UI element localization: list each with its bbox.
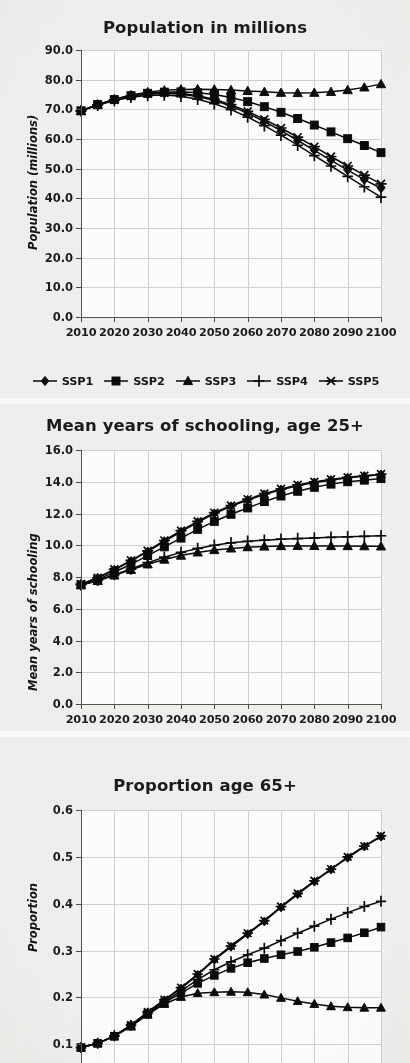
y-axis-tick-label: 0.2 xyxy=(53,990,73,1004)
gridline-vertical xyxy=(381,450,382,704)
y-axis-tick-label: 0.0 xyxy=(53,697,73,711)
y-axis-tick-label: 0.0 xyxy=(53,310,73,324)
triangle-marker-icon xyxy=(174,373,202,389)
y-axis-tick-label: 12.0 xyxy=(45,507,73,521)
legend-item-ssp2[interactable]: SSP2 xyxy=(102,373,165,389)
x-axis-line xyxy=(81,317,381,318)
y-axis-tick-label: 0.1 xyxy=(53,1037,73,1051)
y-axis-tick-label: 4.0 xyxy=(53,634,73,648)
y-axis-line xyxy=(81,50,82,317)
legend-label: SSP3 xyxy=(205,375,237,388)
x-axis-tick-label: 2030 xyxy=(132,713,163,726)
chart-title-proportion65: Proportion age 65+ xyxy=(0,776,410,795)
y-axis-tick-label: 2.0 xyxy=(53,665,73,679)
plot-area-population xyxy=(81,50,381,317)
x-axis-tick-label: 2010 xyxy=(66,713,97,726)
x-axis-tick-label: 2060 xyxy=(232,713,263,726)
x-axis-tick-label: 2010 xyxy=(66,326,97,339)
legend-label: SSP2 xyxy=(133,375,165,388)
x-tick-mark xyxy=(381,704,382,709)
y-axis-label-population: Population (millions) xyxy=(26,115,40,250)
series-ssp5 xyxy=(75,470,386,588)
x-axis-line xyxy=(81,704,381,705)
chart-panel-population: Population in millions Population (milli… xyxy=(0,0,410,398)
y-axis-tick-label: 6.0 xyxy=(53,602,73,616)
y-axis-tick-label: 70.0 xyxy=(45,102,73,116)
series-layer xyxy=(81,450,381,704)
y-axis-tick-label: 10.0 xyxy=(45,280,73,294)
series-ssp5 xyxy=(75,89,386,188)
y-axis-line xyxy=(81,810,82,1063)
y-axis-tick-label: 16.0 xyxy=(45,443,73,457)
x-axis-tick-label: 2070 xyxy=(266,326,297,339)
legend-label: SSP4 xyxy=(276,375,308,388)
series-ssp3 xyxy=(77,987,386,1051)
series-ssp4 xyxy=(76,896,386,1053)
legend: SSP1SSP2SSP3SSP4SSP5 xyxy=(0,370,410,392)
gridline-vertical xyxy=(381,810,382,1063)
series-ssp4 xyxy=(76,89,387,203)
panel-divider-1 xyxy=(0,398,410,404)
x-axis-tick-label: 2070 xyxy=(266,713,297,726)
series-layer xyxy=(81,810,381,1063)
y-axis-tick-label: 0.4 xyxy=(53,897,73,911)
x-axis-tick-label: 2090 xyxy=(332,713,363,726)
x-axis-tick-label: 2080 xyxy=(299,713,330,726)
legend-item-ssp5[interactable]: SSP5 xyxy=(317,373,380,389)
x-axis-tick-label: 2050 xyxy=(199,326,230,339)
x-tick-mark xyxy=(381,317,382,322)
y-axis-tick-label: 10.0 xyxy=(45,538,73,552)
series-layer xyxy=(81,50,381,317)
panel-divider-2 xyxy=(0,731,410,737)
legend-label: SSP1 xyxy=(62,375,94,388)
x-axis-tick-label: 2020 xyxy=(99,326,130,339)
x-axis-tick-label: 2040 xyxy=(166,326,197,339)
x-axis-tick-label: 2100 xyxy=(366,713,397,726)
plot-area-proportion65 xyxy=(81,810,381,1063)
x-axis-tick-label: 2020 xyxy=(99,713,130,726)
x-axis-tick-label: 2080 xyxy=(299,326,330,339)
legend-item-ssp3[interactable]: SSP3 xyxy=(174,373,237,389)
x-axis-tick-label: 2040 xyxy=(166,713,197,726)
x-axis-tick-label: 2090 xyxy=(332,326,363,339)
y-axis-tick-label: 80.0 xyxy=(45,73,73,87)
square-marker-icon xyxy=(102,373,130,389)
y-axis-tick-label: 40.0 xyxy=(45,191,73,205)
legend-label: SSP5 xyxy=(348,375,380,388)
x-axis-tick-label: 2050 xyxy=(199,713,230,726)
x-axis-tick-label: 2030 xyxy=(132,326,163,339)
y-axis-tick-label: 0.6 xyxy=(53,803,73,817)
y-axis-tick-label: 8.0 xyxy=(53,570,73,584)
x-axis-tick-label: 2060 xyxy=(232,326,263,339)
y-axis-tick-label: 20.0 xyxy=(45,251,73,265)
asterisk-marker-icon xyxy=(317,373,345,389)
chart-panel-proportion65: Proportion age 65+ Proportion 0.10.20.30… xyxy=(0,737,410,1063)
diamond-marker-icon xyxy=(31,373,59,389)
chart-title-schooling: Mean years of schooling, age 25+ xyxy=(0,416,410,435)
y-axis-label-proportion: Proportion xyxy=(26,883,40,952)
figure-root: Population in millions Population (milli… xyxy=(0,0,410,1063)
y-axis-tick-label: 0.3 xyxy=(53,944,73,958)
y-axis-tick-label: 50.0 xyxy=(45,162,73,176)
chart-panel-schooling: Mean years of schooling, age 25+ Mean ye… xyxy=(0,404,410,731)
y-axis-tick-label: 90.0 xyxy=(45,43,73,57)
y-axis-tick-label: 30.0 xyxy=(45,221,73,235)
legend-item-ssp1[interactable]: SSP1 xyxy=(31,373,94,389)
plus-marker-icon xyxy=(245,373,273,389)
chart-title-population: Population in millions xyxy=(0,18,410,37)
series-ssp1 xyxy=(77,832,384,1052)
series-ssp4 xyxy=(76,530,387,591)
y-axis-tick-label: 14.0 xyxy=(45,475,73,489)
y-axis-tick-label: 0.5 xyxy=(53,850,73,864)
y-axis-tick-label: 60.0 xyxy=(45,132,73,146)
plot-area-schooling xyxy=(81,450,381,704)
legend-item-ssp4[interactable]: SSP4 xyxy=(245,373,308,389)
y-axis-line xyxy=(81,450,82,704)
x-axis-tick-label: 2100 xyxy=(366,326,397,339)
y-axis-label-schooling: Mean years of schooling xyxy=(26,533,40,691)
